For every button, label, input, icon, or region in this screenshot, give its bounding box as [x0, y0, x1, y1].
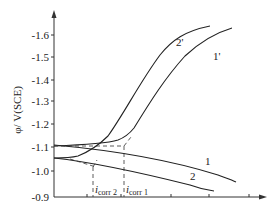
y-tick-label: -1.3: [32, 95, 50, 107]
y-tick-label: -1.2: [32, 118, 49, 130]
icorr-1-label: icorr 1: [126, 183, 148, 197]
y-tick-label: -1.1: [32, 141, 49, 153]
curve-1-label: 1: [205, 155, 211, 167]
y-axis-arrow-icon: [52, 10, 57, 18]
y-tick-label: -1.4: [32, 74, 50, 86]
icorr-2-label: icorr 2: [95, 183, 117, 197]
curve-2-label: 2: [190, 170, 196, 182]
y-axis-label: φ/ V(SCE): [11, 86, 24, 134]
y-tick-label: -1.5: [32, 51, 50, 63]
x-axis-arrow-icon: [259, 195, 267, 200]
curve-1-prime: [54, 28, 232, 146]
y-tick-label: -0.9: [32, 191, 50, 203]
polarization-chart: -1.6 -1.5 -1.4 -1.3 -1.2 -1.1 -1.0 -0.9 …: [0, 0, 277, 217]
y-tick-label: -1.6: [32, 29, 50, 41]
y-tick-label: -1.0: [32, 165, 50, 177]
curve-2-prime: [54, 26, 210, 158]
tafel-extrapolation-1-prime: [124, 137, 131, 146]
curve-2-prime-label: 2': [176, 36, 184, 48]
curve-1-prime-label: 1': [213, 50, 221, 62]
